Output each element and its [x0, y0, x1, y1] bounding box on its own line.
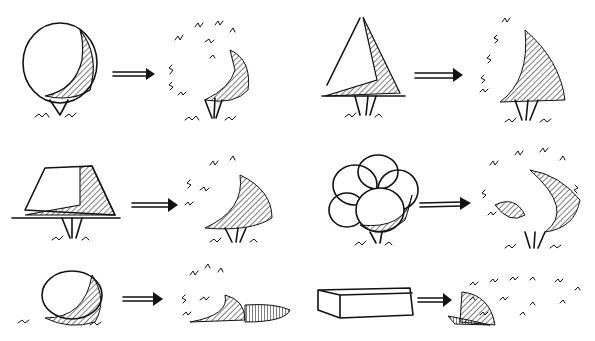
arrow-icon — [418, 293, 452, 307]
form-clustered-spheres — [329, 155, 418, 245]
form-truncated-cone — [12, 166, 120, 240]
arrow-icon — [123, 292, 163, 306]
form-pyramid — [322, 17, 405, 117]
form-rectangular-box — [318, 288, 413, 318]
arrow-icon — [113, 68, 155, 80]
hedge-clipped — [448, 277, 580, 325]
form-sphere — [23, 23, 97, 117]
arrow-icon — [132, 198, 178, 212]
sketch-canvas — [0, 0, 595, 341]
arrow-icon — [415, 68, 463, 82]
shrub-conical — [480, 18, 565, 122]
tree-multi-mass — [482, 148, 580, 248]
form-low-dome — [18, 271, 102, 325]
shrub-round — [169, 21, 249, 120]
arrow-icon — [420, 197, 471, 210]
shrub-spreading — [185, 156, 272, 242]
groundcover-mounded — [182, 264, 290, 322]
